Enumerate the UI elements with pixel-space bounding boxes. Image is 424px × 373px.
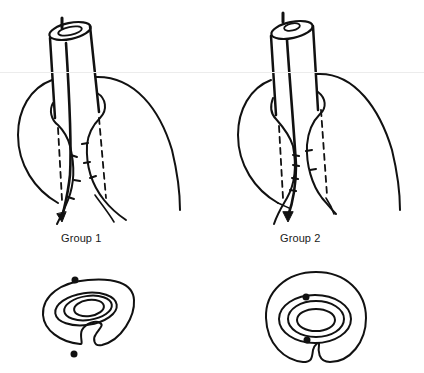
- group-1-dashed-track-right: [99, 118, 106, 198]
- diagram-canvas: Group 1 Group 2: [0, 0, 424, 373]
- group-2-tissue-right-outline: [317, 74, 400, 210]
- group-1-tube-top: [48, 19, 92, 43]
- group-1-label: Group 1: [61, 232, 101, 244]
- group-2-suture-dot-bottom: [304, 337, 311, 344]
- group-1-dashed-track-left: [58, 128, 62, 200]
- group-2-arrowhead: [283, 212, 293, 222]
- group-1-ring-outer: [53, 289, 119, 329]
- group-1-outer-fold: [43, 280, 134, 346]
- surgical-diagram: [0, 0, 424, 373]
- group-1-cross-section: [43, 277, 134, 358]
- group-2-suture-dot-top: [303, 294, 310, 301]
- group-2-cross-section: [266, 272, 366, 362]
- group-1-tissue-right-outline: [96, 77, 180, 210]
- group-2-right-lip-strand: [326, 198, 334, 214]
- group-2-tube-right-wall: [313, 26, 318, 110]
- group-1-illustration: [18, 18, 180, 224]
- scan-line-artifact: [0, 72, 424, 73]
- group-2-ring-outer: [279, 295, 351, 343]
- group-1-tissue-outline: [18, 80, 58, 203]
- group-2-illustration: [238, 13, 400, 224]
- group-1-suture-dot-bottom: [71, 351, 78, 358]
- group-2-lumen: [297, 309, 335, 331]
- group-1-tube-right-wall: [90, 26, 99, 112]
- group-1-suture-dot-top: [72, 277, 79, 284]
- group-2-dashed-track-right: [321, 110, 327, 195]
- group-1-lumen: [73, 298, 105, 318]
- group-2-dashed-track-left: [279, 126, 283, 198]
- group-1-right-lip: [87, 93, 126, 220]
- group-2-label: Group 2: [280, 232, 320, 244]
